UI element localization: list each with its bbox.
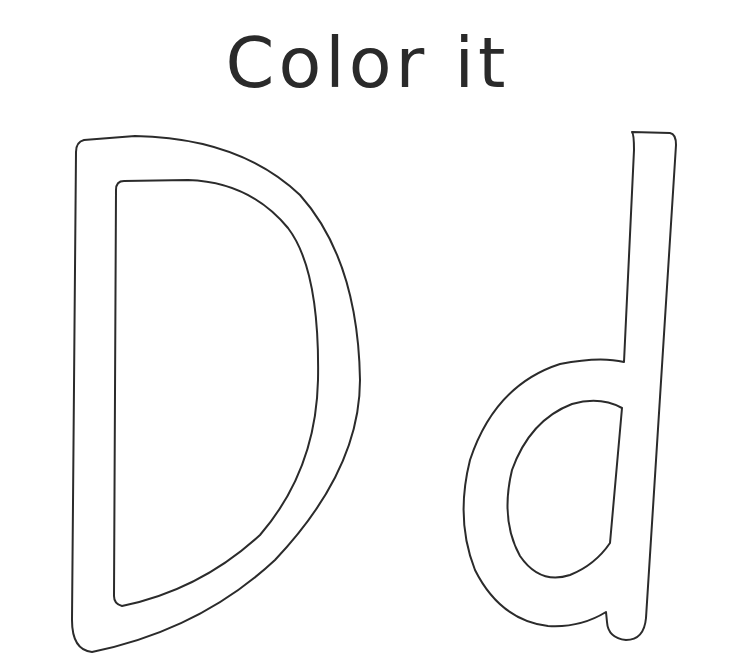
uppercase-d-outline[interactable] [72,136,360,652]
lowercase-d-outline[interactable] [464,132,676,640]
letters-canvas [0,0,735,654]
